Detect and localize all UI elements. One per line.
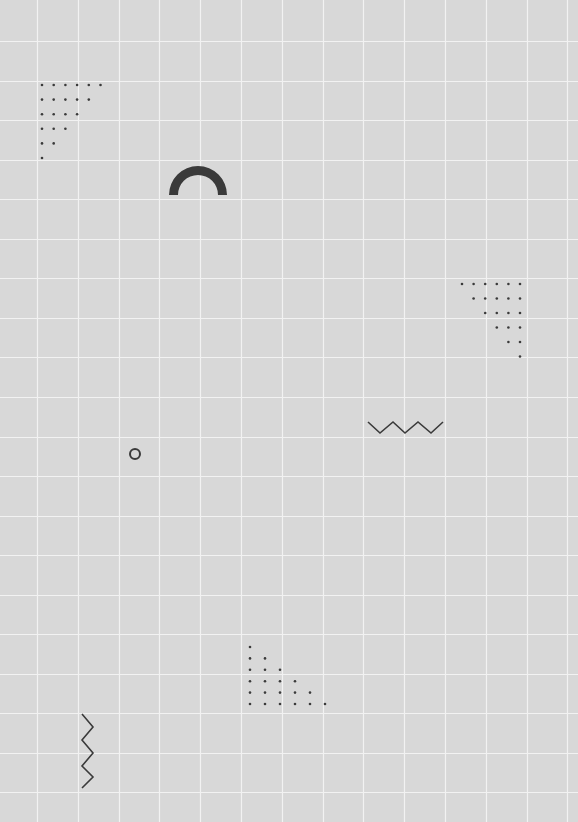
zigzag-horizontal-icon — [368, 422, 443, 433]
half-ring-icon — [169, 166, 227, 195]
decorative-shapes-layer — [0, 0, 578, 822]
zigzag-vertical-icon — [82, 714, 93, 788]
dot-triangle-top-left-icon — [41, 84, 102, 160]
grid-pattern-canvas — [0, 0, 578, 822]
small-circle-icon — [130, 449, 140, 459]
dot-triangle-right-icon — [461, 283, 522, 358]
dot-triangle-bottom-icon — [249, 646, 327, 706]
